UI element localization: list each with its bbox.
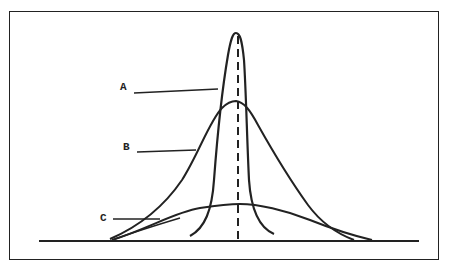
curve-label-b: B xyxy=(123,142,130,153)
leader-line-a xyxy=(134,89,218,93)
curve-c-tail-left xyxy=(115,218,180,239)
curve-label-c: C xyxy=(100,213,107,224)
leader-line-b xyxy=(137,150,196,152)
curve-label-a: A xyxy=(120,82,127,93)
curve-c xyxy=(112,204,372,240)
distribution-curves-diagram xyxy=(0,0,450,273)
